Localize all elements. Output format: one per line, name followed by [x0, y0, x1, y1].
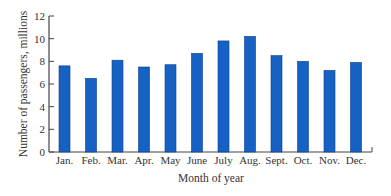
x-tick-label: July	[214, 154, 233, 166]
bar-july	[218, 41, 229, 152]
y-tick-label: 4	[40, 101, 46, 113]
bar-jan	[59, 66, 70, 152]
x-tick-label: Mar.	[107, 154, 128, 166]
bar-oct	[298, 61, 309, 152]
y-tick-label: 12	[34, 10, 45, 22]
y-axis-title: Number of passengers, millions	[17, 10, 30, 157]
y-tick-label: 6	[40, 78, 46, 90]
bar-sept	[271, 56, 282, 152]
y-tick-label: 10	[34, 33, 46, 45]
bar-dec	[351, 62, 362, 152]
y-tick-label: 2	[40, 123, 46, 135]
bars	[59, 36, 362, 152]
x-tick-label: Sept.	[265, 154, 288, 166]
y-tick-label: 8	[40, 55, 46, 67]
x-tick-labels: Jan.Feb.Mar.Apr.MayJuneJulyAug.Sept.Oct.…	[56, 154, 367, 166]
bar-aug	[245, 36, 256, 152]
bar-feb	[86, 78, 97, 152]
x-axis-title: Month of year	[178, 172, 244, 185]
x-tick-label: May	[160, 154, 181, 166]
x-tick-label: Jan.	[56, 154, 74, 166]
bar-nov	[324, 70, 335, 152]
x-axis	[49, 147, 372, 152]
bar-chart: 024681012 Jan.Feb.Mar.Apr.MayJuneJulyAug…	[0, 0, 391, 196]
x-tick-label: Dec.	[346, 154, 367, 166]
x-tick-label: Feb.	[81, 154, 101, 166]
x-tick-label: June	[187, 154, 207, 166]
bar-june	[192, 53, 203, 152]
x-tick-label: Oct.	[294, 154, 313, 166]
bar-apr	[139, 67, 150, 152]
y-tick-label: 0	[40, 146, 46, 158]
x-tick-label: Aug.	[239, 154, 261, 166]
y-axis: 024681012	[34, 10, 54, 158]
bar-mar	[112, 60, 123, 152]
x-tick-label: Apr.	[134, 154, 154, 166]
x-tick-label: Nov.	[319, 154, 340, 166]
bar-may	[165, 65, 176, 152]
